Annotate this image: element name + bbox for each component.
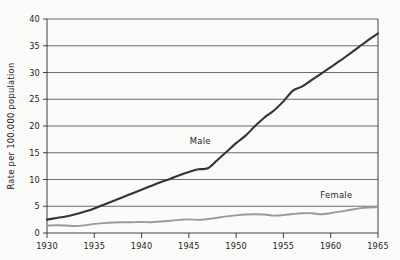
y-tick-label: 15 <box>29 148 40 158</box>
series-label-male: Male <box>190 136 211 146</box>
x-tick-label: 1960 <box>320 241 342 251</box>
y-tick-label: 10 <box>29 175 40 185</box>
y-tick-label: 30 <box>29 68 40 78</box>
y-tick-label: 40 <box>29 14 40 24</box>
x-tick-label: 1940 <box>131 241 153 251</box>
x-tick-label: 1955 <box>273 241 295 251</box>
y-tick-label: 20 <box>29 121 40 131</box>
x-tick-label: 1945 <box>178 241 200 251</box>
x-tick-label: 1935 <box>83 241 105 251</box>
x-tick-label: 1965 <box>367 241 389 251</box>
plot-background <box>0 0 400 260</box>
series-label-female: Female <box>320 190 352 200</box>
y-tick-label: 0 <box>35 228 40 238</box>
y-axis-title: Rate per 100.000 population <box>6 62 16 189</box>
y-tick-label: 25 <box>29 94 40 104</box>
chart-figure: 0510152025303540 19301935194019451950195… <box>0 0 400 260</box>
y-axis-title-text: Rate per 100.000 population <box>6 62 16 189</box>
x-tick-label: 1950 <box>225 241 247 251</box>
x-tick-label: 1930 <box>36 241 58 251</box>
line-chart: 0510152025303540 19301935194019451950195… <box>0 0 400 260</box>
y-tick-label: 35 <box>29 41 40 51</box>
y-tick-label: 5 <box>35 201 40 211</box>
